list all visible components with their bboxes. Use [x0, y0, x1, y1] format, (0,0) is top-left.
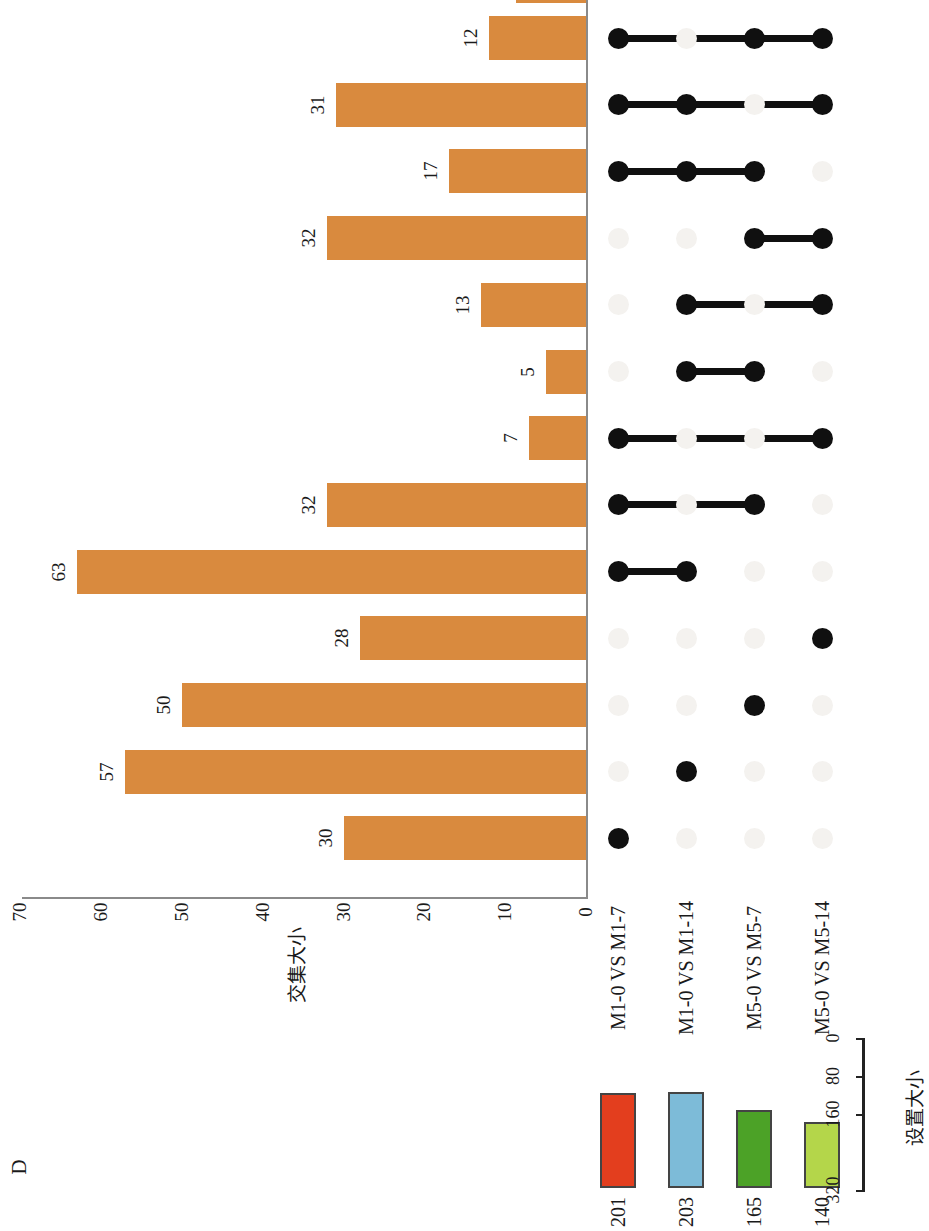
set-size-bar [668, 1092, 704, 1188]
matrix-dot-empty [676, 428, 697, 449]
matrix-dot-filled [676, 94, 697, 115]
matrix-connector-line [615, 101, 826, 108]
intersection-bar [182, 683, 586, 727]
matrix-dot-empty [744, 761, 765, 782]
matrix-dot-filled [744, 28, 765, 49]
matrix-dot-filled [744, 161, 765, 182]
matrix-dot-empty [676, 628, 697, 649]
intersection-axis-tick-label: 30 [332, 892, 356, 932]
set-size-bar [736, 1110, 772, 1188]
matrix-dot-filled [744, 494, 765, 515]
intersection-bar [327, 216, 586, 260]
matrix-dot-empty [812, 828, 833, 849]
matrix-dot-empty [744, 294, 765, 315]
matrix-dot-empty [676, 494, 697, 515]
intersection-bar-value: 13 [450, 283, 476, 327]
intersection-bar-value: 7 [498, 416, 524, 460]
matrix-dot-filled [608, 494, 629, 515]
intersection-bar-value: 63 [46, 550, 72, 594]
matrix-dot-filled [676, 761, 697, 782]
intersection-bar-value: 50 [151, 683, 177, 727]
intersection-axis-tick-label: 60 [89, 892, 113, 932]
intersection-bar-value: 30 [313, 816, 339, 860]
intersection-axis-tick-label: 0 [574, 892, 598, 932]
matrix-dot-empty [676, 28, 697, 49]
intersection-bar [546, 350, 586, 394]
intersection-bar [360, 616, 586, 660]
matrix-dot-empty [608, 361, 629, 382]
intersection-axis-tick-label: 40 [251, 892, 275, 932]
set-size-value: 165 [742, 1185, 766, 1231]
intersection-bar [529, 416, 586, 460]
matrix-dot-filled [812, 428, 833, 449]
set-size-tick-label: 320 [822, 1167, 844, 1213]
matrix-dot-empty [812, 695, 833, 716]
matrix-dot-empty [812, 494, 833, 515]
matrix-dot-empty [676, 695, 697, 716]
matrix-dot-empty [812, 761, 833, 782]
matrix-dot-empty [608, 294, 629, 315]
intersection-bar-value: 28 [329, 616, 355, 660]
intersection-axis-tick-label: 10 [493, 892, 517, 932]
intersection-axis-tick-label: 70 [8, 892, 32, 932]
matrix-dot-filled [676, 361, 697, 382]
matrix-dot-empty [676, 828, 697, 849]
intersection-bar-value: 32 [296, 483, 322, 527]
intersection-size-axis-title: 交集大小 [283, 885, 313, 1045]
matrix-dot-empty [608, 695, 629, 716]
intersection-bar-cropped [516, 0, 586, 3]
intersection-bar [77, 550, 586, 594]
matrix-dot-filled [608, 561, 629, 582]
upset-matrix [600, 0, 852, 898]
matrix-dot-empty [676, 228, 697, 249]
matrix-dot-filled [608, 94, 629, 115]
matrix-dot-empty [744, 94, 765, 115]
intersection-bar [336, 83, 586, 127]
matrix-dot-filled [676, 294, 697, 315]
matrix-dot-empty [812, 561, 833, 582]
matrix-dot-empty [744, 561, 765, 582]
matrix-connector-line [615, 35, 826, 42]
matrix-dot-filled [608, 28, 629, 49]
set-size-bars: 201203165140 [560, 1020, 912, 1201]
matrix-dot-empty [744, 628, 765, 649]
matrix-dot-empty [744, 828, 765, 849]
intersection-bar-value: 31 [305, 83, 331, 127]
intersection-bar-value: 5 [515, 350, 541, 394]
intersection-bar-value: 12 [458, 16, 484, 60]
matrix-dot-empty [744, 428, 765, 449]
matrix-dot-empty [812, 361, 833, 382]
matrix-dot-filled [812, 628, 833, 649]
intersection-bar [481, 283, 586, 327]
intersection-bar-chart: 123117321357326328505730 [0, 0, 600, 898]
set-size-value: 201 [606, 1185, 630, 1231]
matrix-dot-filled [812, 94, 833, 115]
intersection-axis-tick-label: 50 [170, 892, 194, 932]
matrix-dot-filled [744, 228, 765, 249]
bar-chart-baseline [586, 0, 588, 898]
matrix-dot-filled [744, 361, 765, 382]
set-size-tick-label: 160 [822, 1091, 844, 1137]
matrix-dot-filled [812, 228, 833, 249]
matrix-dot-filled [676, 161, 697, 182]
matrix-dot-filled [744, 695, 765, 716]
matrix-dot-filled [676, 561, 697, 582]
matrix-dot-filled [812, 294, 833, 315]
intersection-bar [489, 16, 586, 60]
matrix-connector-line [615, 435, 826, 442]
intersection-bar-value: 57 [94, 750, 120, 794]
matrix-dot-filled [608, 161, 629, 182]
matrix-dot-empty [608, 628, 629, 649]
intersection-bar-value: 32 [296, 216, 322, 260]
matrix-dot-filled [608, 828, 629, 849]
set-size-axis-title: 设置大小 [903, 1048, 929, 1168]
matrix-dot-empty [608, 228, 629, 249]
set-size-tick-mark [856, 1190, 865, 1192]
intersection-bar [327, 483, 586, 527]
intersection-axis-tick-label: 20 [412, 892, 436, 932]
intersection-bar-value: 17 [418, 149, 444, 193]
set-size-value: 203 [674, 1185, 698, 1231]
matrix-dot-filled [608, 428, 629, 449]
intersection-bar [125, 750, 586, 794]
intersection-bar [344, 816, 586, 860]
